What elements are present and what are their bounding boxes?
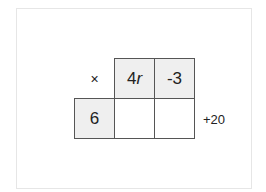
coefficient-text: 4 [127, 69, 136, 89]
row-header-text: 6 [90, 109, 99, 129]
variable-text: r [136, 69, 142, 89]
product-cell-1[interactable] [114, 98, 155, 139]
constant-text: -3 [167, 69, 182, 89]
operator-symbol: × [90, 71, 98, 87]
product-cell-2[interactable] [154, 98, 195, 139]
column-header-2: -3 [154, 58, 195, 99]
column-header-1: 4r [114, 58, 155, 99]
side-term-label: +20 [203, 112, 225, 127]
row-header-1: 6 [74, 98, 115, 139]
multiplication-sign: × [74, 58, 115, 99]
